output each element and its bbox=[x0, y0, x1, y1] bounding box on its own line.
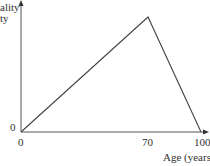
x-tick-0: 0 bbox=[18, 137, 24, 148]
x-axis-label: Age (years) bbox=[163, 152, 210, 163]
y-axis-label-line2: ty bbox=[0, 13, 9, 24]
data-line bbox=[21, 17, 201, 132]
y-tick-0: 0 bbox=[10, 122, 16, 133]
x-tick-100: 100 bbox=[194, 137, 210, 148]
x-axis-arrow-icon bbox=[203, 130, 209, 135]
chart-canvas bbox=[0, 0, 210, 166]
x-tick-70: 70 bbox=[142, 137, 153, 148]
